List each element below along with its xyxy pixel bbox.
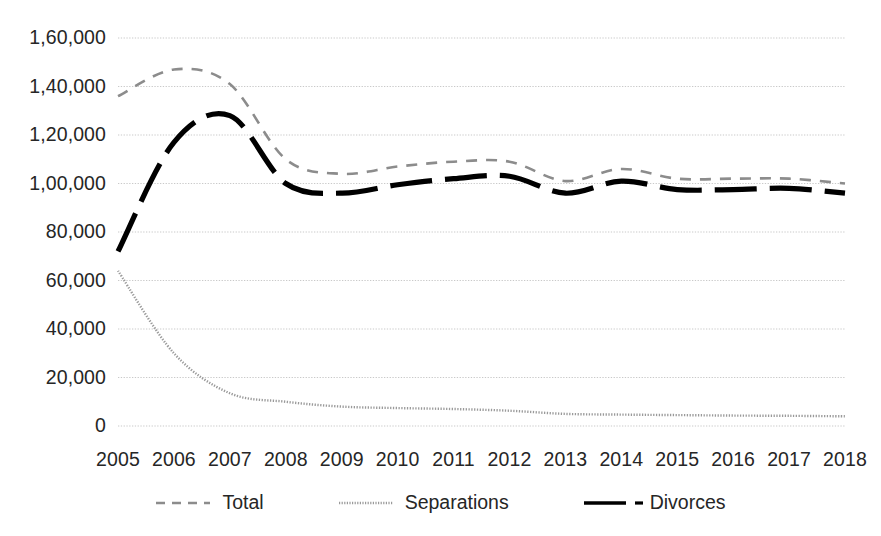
legend-label-divorces: Divorces [650,493,726,513]
legend-item-separations[interactable]: Separations [338,493,509,513]
x-axis-tick-label: 2013 [543,450,587,470]
dotted-line-icon [338,496,394,510]
x-axis-tick-label: 2009 [320,450,364,470]
x-axis: 2005200620072008200920102011201220132014… [0,0,881,536]
x-axis-tick-label: 2008 [264,450,308,470]
x-axis-tick-label: 2012 [488,450,532,470]
x-axis-tick-label: 2014 [599,450,643,470]
x-axis-tick-label: 2005 [96,450,140,470]
legend-item-divorces[interactable]: Divorces [583,493,726,513]
bold-dashed-line-icon [583,496,639,510]
legend-label-total: Total [222,493,263,513]
x-axis-tick-label: 2017 [767,450,811,470]
x-axis-tick-label: 2011 [432,450,474,470]
chart-legend: Total Separations Divorces [0,486,881,520]
x-axis-tick-label: 2007 [208,450,252,470]
x-axis-tick-label: 2006 [152,450,196,470]
x-axis-tick-label: 2015 [655,450,699,470]
legend-label-separations: Separations [405,493,509,513]
dashed-line-icon [155,496,211,510]
x-axis-tick-label: 2010 [376,450,420,470]
x-axis-tick-label: 2018 [823,450,867,470]
x-axis-tick-label: 2016 [711,450,755,470]
legend-item-total[interactable]: Total [155,493,263,513]
line-chart: 020,00040,00060,00080,0001,00,0001,20,00… [0,0,881,536]
